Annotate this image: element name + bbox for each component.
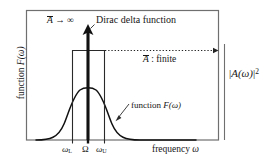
y-axis-label: function F(ω) — [17, 30, 27, 116]
dotted-line-arrowhead — [213, 48, 219, 53]
x-axis-label: frequency ω — [152, 145, 199, 155]
amplitude-finite-label: A : finite — [143, 54, 176, 65]
y-axis-symbol: F — [16, 59, 26, 65]
curve-annotation-argument: (ω) — [169, 100, 181, 110]
right-axis-exponent: 2 — [255, 67, 259, 76]
tick-symbol-big-omega: Ω — [82, 144, 89, 154]
amplitude-diverges-text: → ∞ — [53, 15, 74, 25]
curve-leader-arrowhead — [116, 115, 122, 121]
y-axis-argument: (ω) — [16, 46, 26, 59]
y-axis-text: function — [16, 65, 26, 99]
dirac-delta-function-label: Dirac delta function — [96, 15, 176, 25]
figure-canvas — [0, 0, 271, 167]
bell-curve — [36, 88, 196, 140]
tick-label-big-omega: Ω — [82, 145, 89, 154]
amplitude-symbol: A — [47, 15, 53, 26]
tick-subscript-omega-upper: U — [102, 148, 106, 154]
amplitude-diverges-label: A → ∞ — [47, 15, 74, 26]
curve-leader-line — [118, 104, 129, 118]
dirac-leader-line — [91, 25, 95, 29]
dirac-delta-figure: A → ∞ Dirac delta function A : finite |A… — [0, 0, 271, 167]
tick-label-omega-upper: ωU — [96, 145, 107, 154]
amplitude-finite-symbol: A — [143, 54, 149, 65]
right-axis-symbol: A — [231, 67, 238, 79]
right-axis-argument: (ω) — [238, 67, 253, 79]
tick-label-omega-lower: ωL — [62, 145, 72, 154]
curve-annotation-text: function — [131, 100, 163, 110]
amplitude-finite-text: : finite — [149, 54, 176, 64]
tick-subscript-omega-lower: L — [68, 148, 72, 154]
curve-annotation-label: function F(ω) — [131, 101, 181, 110]
x-axis-symbol: ω — [192, 144, 199, 154]
right-axis-label: |A(ω)|2 — [229, 68, 259, 79]
plot-frame — [27, 11, 219, 141]
x-axis-text: frequency — [152, 144, 192, 154]
